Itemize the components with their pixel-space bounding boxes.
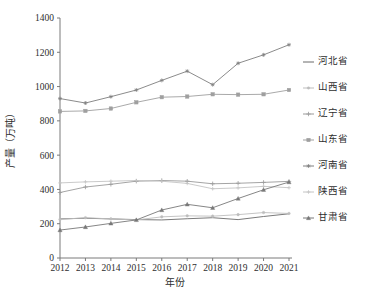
y-tick-label: 600 [40, 151, 55, 161]
data-point [59, 218, 62, 221]
data-point [134, 88, 138, 92]
legend-item-山西省[interactable]: 山西省 [303, 81, 348, 92]
legend-label: 甘肃省 [318, 211, 348, 222]
data-point [307, 87, 310, 90]
y-tick-label: 200 [40, 219, 55, 229]
x-tick-label: 2020 [254, 263, 273, 273]
line-chart: 0200400600800100012001400 20122013201420… [0, 0, 366, 299]
legend-item-河北省[interactable]: 河北省 [303, 55, 348, 66]
y-tick-label: 0 [49, 253, 54, 263]
data-point [84, 180, 88, 184]
chart-canvas: 0200400600800100012001400 20122013201420… [0, 0, 366, 299]
y-axis: 0200400600800100012001400 [35, 13, 60, 263]
legend-label: 山东省 [318, 133, 348, 144]
data-point [307, 164, 311, 168]
y-axis-title: 产量（万吨） [4, 108, 16, 168]
chart-legend: 河北省山西省辽宁省山东省河南省陕西省甘肃省 [303, 55, 348, 222]
data-point [261, 180, 265, 184]
y-tick-label: 800 [40, 116, 55, 126]
legend-item-甘肃省[interactable]: 甘肃省 [303, 211, 348, 222]
data-point [109, 179, 113, 183]
legend-label: 河南省 [318, 159, 348, 170]
x-tick-label: 2018 [203, 263, 222, 273]
data-point [160, 216, 163, 219]
data-point [83, 185, 87, 189]
data-point [160, 179, 164, 183]
data-point [262, 53, 266, 57]
data-point [236, 181, 240, 185]
data-point [211, 93, 214, 96]
x-tick-label: 2014 [101, 263, 120, 273]
series-line [60, 214, 289, 220]
data-point [135, 101, 138, 104]
data-point [236, 186, 240, 190]
data-point [58, 97, 62, 101]
legend-item-山东省[interactable]: 山东省 [303, 133, 348, 144]
data-point [185, 182, 189, 186]
data-point [110, 218, 113, 221]
x-tick-label: 2021 [280, 263, 299, 273]
data-point [236, 61, 240, 65]
data-point [186, 95, 189, 98]
y-tick-label: 1000 [35, 82, 54, 92]
data-point [58, 181, 62, 185]
x-axis: 2012201320142015201620172018201920202021 [51, 258, 299, 273]
data-point [306, 112, 310, 116]
legend-label: 河北省 [318, 55, 348, 66]
y-tick-label: 1400 [35, 13, 54, 23]
legend-label: 辽宁省 [318, 107, 348, 118]
data-point [262, 93, 265, 96]
data-point [287, 88, 290, 91]
data-point [84, 216, 87, 219]
data-point [83, 101, 87, 105]
data-point [211, 215, 214, 218]
data-point [109, 95, 113, 99]
data-point [237, 213, 240, 216]
data-point [236, 93, 239, 96]
x-axis-title: 年份 [165, 276, 185, 288]
data-point [211, 187, 215, 191]
data-point [287, 186, 291, 190]
series-layer [58, 43, 291, 232]
data-point [109, 107, 112, 110]
legend-item-陕西省[interactable]: 陕西省 [303, 185, 348, 196]
legend-item-河南省[interactable]: 河南省 [303, 159, 348, 170]
data-point [262, 211, 265, 214]
legend-label: 陕西省 [318, 185, 348, 196]
data-point [186, 215, 189, 218]
legend-item-辽宁省[interactable]: 辽宁省 [303, 107, 348, 118]
data-point [307, 190, 311, 194]
series-line [60, 182, 289, 230]
y-tick-label: 1200 [35, 48, 54, 58]
x-tick-label: 2019 [229, 263, 248, 273]
series-河北省 [60, 214, 289, 220]
data-point [58, 110, 61, 113]
data-point [160, 78, 164, 82]
series-line [60, 181, 289, 189]
data-point [211, 83, 215, 87]
data-point [58, 190, 62, 194]
data-point [210, 182, 214, 186]
data-point [287, 43, 291, 47]
x-tick-label: 2017 [178, 263, 197, 273]
data-point [84, 109, 87, 112]
legend-label: 山西省 [318, 81, 348, 92]
series-河南省 [58, 43, 291, 105]
data-point [160, 96, 163, 99]
series-甘肃省 [58, 180, 291, 232]
x-tick-label: 2013 [76, 263, 95, 273]
data-point [288, 212, 291, 215]
x-tick-label: 2015 [127, 263, 146, 273]
y-tick-label: 400 [40, 185, 55, 195]
x-tick-label: 2016 [152, 263, 171, 273]
x-tick-label: 2012 [51, 263, 70, 273]
data-point [307, 138, 310, 141]
data-point [185, 69, 189, 73]
